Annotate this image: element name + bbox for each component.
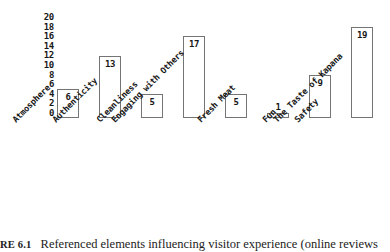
bar-engaging-with-others: 17 bbox=[183, 36, 205, 118]
bar-value-label: 13 bbox=[100, 59, 120, 69]
bar-value-label: 5 bbox=[226, 97, 246, 107]
bar-value-label: 5 bbox=[142, 97, 162, 107]
x-axis-category-labels: Atmosphere Authenticity Cleanliness Enga… bbox=[0, 118, 390, 230]
bar-cleanliness: 5 bbox=[141, 94, 163, 118]
figure-caption: RE 6.1Referenced elements influencing vi… bbox=[0, 236, 390, 252]
bar-value-label: 19 bbox=[352, 30, 372, 40]
figure-container: 20 18 16 14 12 10 8 6 4 2 0 6 13 5 17 bbox=[0, 0, 390, 252]
figure-caption-number: RE 6.1 bbox=[0, 239, 32, 250]
bar-value-label: 17 bbox=[184, 39, 204, 49]
bar-the-taste-of-kapana: 19 bbox=[351, 27, 373, 118]
figure-caption-text: Referenced elements influencing visitor … bbox=[41, 237, 378, 251]
